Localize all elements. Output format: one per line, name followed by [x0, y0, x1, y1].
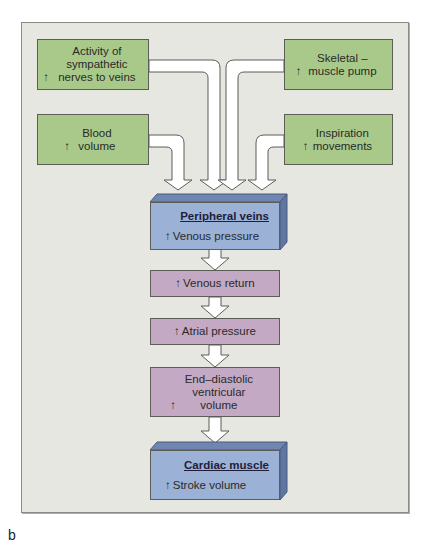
cardiac-box-side — [280, 442, 287, 500]
input-label: Activity of sympathetic nerves to veins — [51, 45, 143, 84]
up-arrow-icon: ↑ — [296, 65, 302, 77]
arrow-sympathetic — [149, 60, 228, 190]
stroke-volume-label: Stroke volume — [173, 479, 247, 491]
arrow-veins-to-return — [201, 248, 229, 270]
up-arrow-icon: ↑ — [170, 399, 176, 411]
atrial-pressure-box: ↑Atrial pressure — [150, 318, 280, 345]
chain-label: Venous return — [183, 277, 255, 289]
arrow-blood-volume — [149, 135, 192, 190]
cardiac-muscle-title: Cardiac muscle — [184, 459, 269, 472]
veins-box-top — [150, 194, 287, 202]
up-arrow-icon: ↑ — [64, 140, 70, 152]
chain-label: End–diastolic ventricular volume — [178, 373, 260, 412]
arrow-inspiration — [248, 135, 284, 190]
peripheral-veins-title: Peripheral veins — [180, 210, 269, 223]
input-label: Inspiration movements — [310, 127, 374, 153]
arrow-skeletal-pump — [218, 60, 284, 190]
cardiac-muscle-box: Cardiac muscle ↑Stroke volume — [150, 450, 280, 500]
up-arrow-icon: ↑ — [165, 479, 171, 491]
up-arrow-icon: ↑ — [303, 140, 309, 152]
input-box-inspiration: ↑Inspiration movements — [284, 114, 393, 165]
cardiac-box-top — [150, 442, 287, 450]
veins-box-side — [280, 194, 287, 250]
arrow-return-to-atrial — [201, 297, 229, 318]
up-arrow-icon: ↑ — [174, 325, 180, 337]
panel-label: b — [8, 527, 16, 543]
up-arrow-icon: ↑ — [165, 230, 171, 242]
chain-label: Atrial pressure — [182, 325, 256, 337]
input-label: Skeletal – muscle pump — [303, 52, 381, 78]
up-arrow-icon: ↑ — [175, 277, 181, 289]
venous-pressure-label: Venous pressure — [173, 230, 259, 242]
up-arrow-icon: ↑ — [43, 71, 49, 83]
edv-box: ↑End–diastolic ventricular volume — [150, 367, 280, 417]
venous-return-box: ↑Venous return — [150, 270, 280, 297]
peripheral-veins-box: Peripheral veins ↑Venous pressure — [150, 202, 280, 250]
arrow-atrial-to-edv — [201, 345, 229, 367]
input-box-blood-volume: ↑Blood volume — [37, 114, 149, 165]
input-box-skeletal-pump: ↑Skeletal – muscle pump — [284, 39, 393, 90]
input-box-sympathetic: ↑Activity of sympathetic nerves to veins — [37, 39, 149, 90]
arrow-edv-to-cardiac — [201, 417, 229, 443]
input-label: Blood volume — [72, 127, 122, 153]
